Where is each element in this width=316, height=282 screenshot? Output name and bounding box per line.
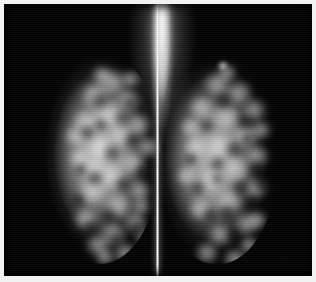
tissue-bright-blob: [130, 196, 152, 216]
tissue-dark-blob: [114, 176, 132, 192]
tissue-dark-blob: [218, 204, 236, 220]
tissue-dark-blob: [190, 180, 206, 196]
tissue-dark-blob: [244, 194, 260, 210]
tissue-dark-blob: [236, 114, 254, 130]
tissue-bright-blob: [94, 248, 116, 264]
tissue-dark-blob: [70, 192, 86, 208]
tissue-dark-blob: [226, 228, 242, 242]
mammogram-viewer: [0, 0, 316, 282]
tissue-dark-blob: [82, 220, 98, 234]
tissue-bright-blob: [90, 66, 114, 84]
tissue-dark-blob: [134, 164, 150, 178]
tissue-bright-blob: [194, 242, 220, 264]
panel-divider-line: [156, 4, 159, 276]
tissue-dark-blob: [202, 208, 218, 222]
bright-focus-marker: [216, 60, 230, 72]
tissue-dark-blob: [214, 92, 234, 110]
tissue-dark-blob: [254, 178, 270, 192]
tissue-bright-blob: [246, 210, 268, 230]
tissue-dark-blob: [100, 208, 118, 224]
mammogram-film: [4, 4, 312, 276]
tissue-dark-blob: [240, 132, 254, 146]
tissue-dark-blob: [184, 152, 198, 166]
tissue-dark-blob: [108, 232, 124, 246]
tissue-dark-blob: [248, 160, 264, 176]
tissue-dark-blob: [90, 92, 110, 110]
tissue-dark-blob: [74, 162, 88, 176]
tissue-dark-blob: [102, 144, 122, 162]
tissue-dark-blob: [210, 172, 224, 186]
tissue-dark-blob: [94, 118, 108, 132]
tissue-bright-blob: [238, 236, 260, 254]
tissue-dark-blob: [86, 170, 104, 186]
tissue-dark-blob: [128, 220, 144, 236]
tissue-dark-blob: [208, 156, 226, 172]
tissue-dark-blob: [232, 180, 250, 196]
